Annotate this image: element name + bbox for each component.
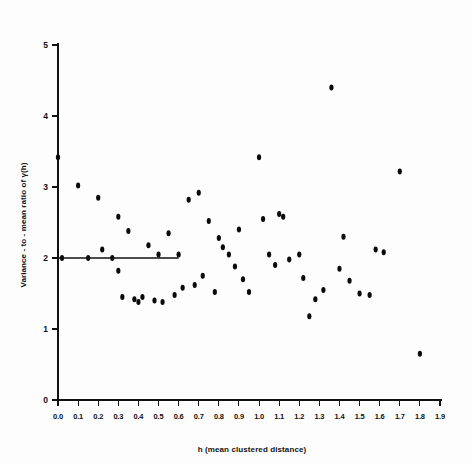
data-point [357,291,361,297]
data-point [173,292,177,298]
scatter-plot: 0.00.10.20.30.40.50.60.70.80.91.01.11.21… [0,0,472,464]
x-tick-label: 1.2 [294,412,304,421]
data-point [116,214,120,220]
data-point [267,251,271,257]
x-tick-label: 0.8 [214,412,224,421]
y-tick-label: 0 [43,395,48,405]
x-tick-label: 1.1 [274,412,284,421]
data-point [341,234,345,240]
data-point [177,251,181,257]
data-point [181,285,185,291]
data-point [347,278,351,284]
x-tick-label: 1.4 [335,412,346,421]
data-point [96,195,100,201]
data-point [56,154,60,160]
figure-canvas: 0.00.10.20.30.40.50.60.70.80.91.01.11.21… [0,0,472,464]
y-tick-label: 5 [43,40,48,50]
data-point [166,230,170,236]
y-tick-label: 1 [43,324,48,334]
x-tick-label: 1.6 [375,412,385,421]
data-point [140,294,144,300]
data-point [152,298,156,304]
data-point [287,256,291,262]
x-tick-label: 0.3 [113,412,123,421]
data-point [156,251,160,257]
data-point [257,154,261,160]
data-point [281,214,285,220]
data-point [307,313,311,319]
data-point [273,262,277,268]
x-tick-labels: 0.00.10.20.30.40.50.60.70.80.91.01.11.21… [53,412,445,421]
data-point [233,264,237,270]
y-axis-ticks [52,45,58,400]
data-point [382,249,386,255]
y-tick-labels: 012345 [43,40,48,405]
data-point [160,299,164,305]
data-point [120,294,124,300]
data-point [126,228,130,234]
axes-group [58,43,442,400]
data-point [193,282,197,288]
y-tick-label: 3 [43,182,48,192]
data-point [136,299,140,305]
x-tick-label: 0.7 [194,412,204,421]
data-point [132,296,136,302]
x-tick-label: 0.6 [174,412,184,421]
data-point [100,246,104,252]
data-point [313,296,317,302]
data-point [187,197,191,203]
data-point [261,216,265,222]
data-points-layer [56,85,422,357]
x-tick-label: 0.2 [93,412,103,421]
x-tick-label: 0.0 [53,412,63,421]
x-axis-title: h (mean clustered distance) [198,445,307,454]
x-tick-label: 0.1 [73,412,83,421]
y-axis-title: Variance - to - mean ratio of γ(h) [19,162,28,287]
data-point [398,168,402,174]
data-point [201,273,205,279]
data-point [116,268,120,274]
x-axis-ticks [58,400,440,406]
data-point [321,287,325,293]
y-tick-label: 4 [43,111,48,121]
data-point [301,275,305,281]
data-point [368,292,372,298]
data-point [277,211,281,217]
x-tick-label: 1.3 [314,412,324,421]
x-tick-label: 1.7 [395,412,405,421]
x-tick-label: 1.9 [435,412,445,421]
y-tick-label: 2 [43,253,48,263]
data-point [227,251,231,257]
x-tick-label: 1.0 [254,412,264,421]
data-point [374,246,378,252]
x-tick-label: 1.5 [355,412,365,421]
data-point [241,276,245,282]
data-point [146,242,150,248]
x-tick-label: 0.9 [234,412,244,421]
data-point [207,218,211,224]
data-point [418,351,422,357]
data-point [221,244,225,250]
data-point [213,289,217,295]
x-tick-label: 0.4 [134,412,145,421]
data-point [297,251,301,257]
data-point [76,183,80,189]
data-point [217,235,221,241]
data-point [197,190,201,196]
x-tick-label: 1.8 [415,412,425,421]
data-point [247,289,251,295]
x-tick-label: 0.5 [154,412,164,421]
data-point [329,85,333,91]
data-point [237,227,241,233]
data-point [337,266,341,272]
